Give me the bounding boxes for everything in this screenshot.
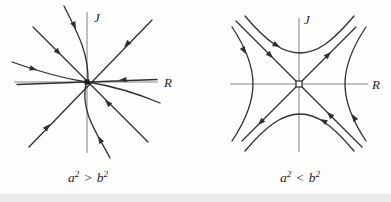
r-axis-label: R: [371, 77, 380, 92]
caption-relation: <: [296, 170, 304, 185]
arrowhead-icon: [122, 40, 131, 49]
arrowhead-icon: [29, 65, 38, 73]
j-axis-label: J: [94, 10, 101, 25]
figure-canvas: R J: [0, 0, 391, 202]
scan-edge-shadow: [0, 194, 391, 202]
trajectory-curve-bottom: [85, 83, 110, 158]
caption-lhs-base: a: [68, 170, 75, 185]
caption-relation: >: [84, 170, 92, 185]
trajectory-curve-left-shallow: [12, 62, 86, 82]
caption-right: a2<b2: [280, 170, 320, 186]
panel-left-node: R J: [12, 6, 172, 158]
r-axis-label: R: [163, 75, 172, 90]
caption-lhs-exponent: 2: [287, 169, 292, 179]
j-axis-label: J: [304, 12, 311, 27]
caption-rhs-base: b: [97, 170, 104, 185]
phase-portraits-svg: R J: [0, 0, 391, 202]
caption-lhs-base: a: [280, 170, 287, 185]
panel-right-saddle: R J: [230, 12, 380, 152]
caption-rhs-exponent: 2: [104, 169, 109, 179]
arrowhead-icon: [103, 98, 112, 107]
caption-lhs-exponent: 2: [75, 169, 80, 179]
fixed-point-filled-square: [85, 80, 90, 85]
caption-left: a2>b2: [68, 170, 108, 186]
caption-rhs-base: b: [309, 170, 316, 185]
arrowhead-icon: [96, 135, 105, 144]
fixed-point-open-square: [296, 81, 302, 87]
caption-rhs-exponent: 2: [316, 169, 321, 179]
arrowhead-icon: [43, 122, 52, 131]
